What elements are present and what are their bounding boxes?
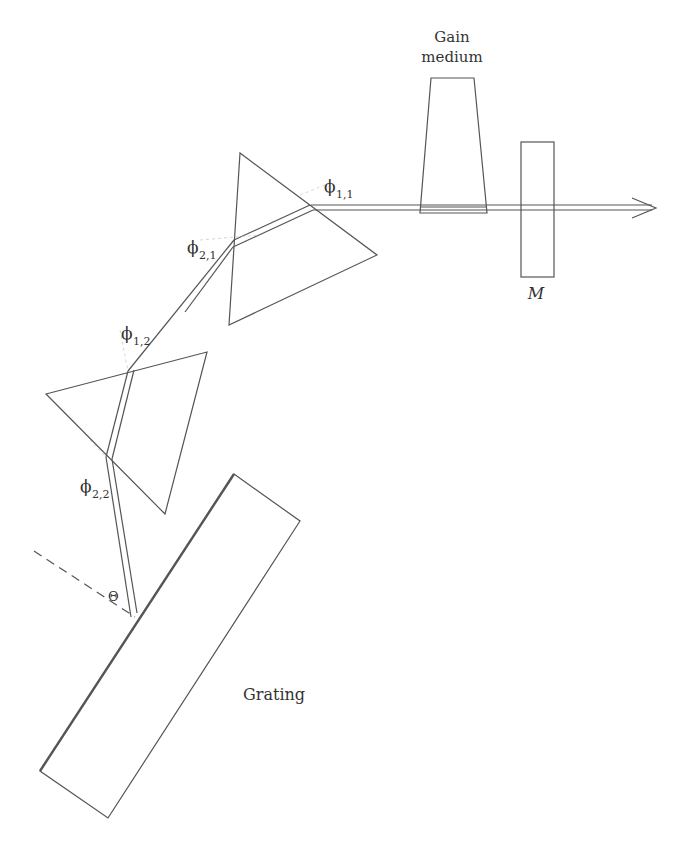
grating-surface xyxy=(40,474,234,771)
phi-1-2-subscript: 1,2 xyxy=(133,335,151,348)
phi-2-1-label: ϕ xyxy=(187,237,199,257)
output-beam xyxy=(311,198,656,218)
grating-normal xyxy=(34,551,135,617)
grating xyxy=(40,474,300,818)
phi-1-1-label: ϕ xyxy=(324,176,336,196)
phi-2-1-subscript: 2,1 xyxy=(199,249,217,262)
phi-2-2-subscript: 2,2 xyxy=(92,488,110,501)
phi-2-2-label: ϕ xyxy=(80,476,92,496)
arrow-head-icon xyxy=(632,198,656,218)
phi-1-2-label: ϕ xyxy=(121,323,133,343)
gain-medium-label-line2: medium xyxy=(421,48,482,66)
gain-medium-label-line1: Gain xyxy=(434,28,470,46)
gain-medium xyxy=(420,78,487,213)
grating-label: Grating xyxy=(243,685,305,704)
phi-1-1-subscript: 1,1 xyxy=(336,188,354,201)
laser-cavity-diagram: Gain medium M Grating Θ ϕ 1,1 ϕ 2,1 ϕ 1,… xyxy=(0,0,691,851)
theta-label: Θ xyxy=(108,589,119,604)
mirror-label: M xyxy=(527,284,545,303)
